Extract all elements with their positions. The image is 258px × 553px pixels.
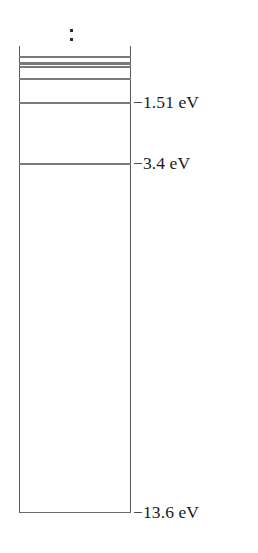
ellipsis-dot-upper — [70, 29, 73, 32]
ellipsis-dot-lower — [70, 38, 73, 41]
energy-label-n1: −13.6 eV — [133, 504, 199, 522]
vertical-ellipsis-icon — [70, 28, 77, 46]
energy-level-diagram: −1.51 eV −3.4 eV −13.6 eV — [0, 0, 258, 553]
potential-well-box — [19, 46, 131, 513]
energy-label-n2: −3.4 eV — [133, 155, 190, 173]
energy-label-n3: −1.51 eV — [133, 94, 199, 112]
